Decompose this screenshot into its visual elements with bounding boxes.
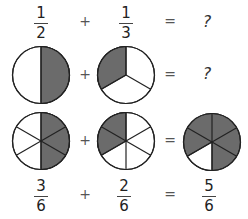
circle-one-half <box>13 47 70 104</box>
numerator: 5 <box>197 179 221 194</box>
circle-three-sixths <box>13 113 70 170</box>
fraction-five-sixths: 5 6 <box>197 179 221 214</box>
circle-one-third <box>98 47 155 104</box>
circle-five-sixths <box>184 114 241 171</box>
equals-sign: = <box>162 186 178 202</box>
numerator: 3 <box>29 179 53 194</box>
circle-two-sixths <box>98 113 155 170</box>
denominator: 6 <box>197 199 221 214</box>
numerator: 2 <box>112 179 136 194</box>
denominator: 6 <box>29 199 53 214</box>
fraction-two-sixths: 2 6 <box>112 179 136 214</box>
denominator: 6 <box>112 199 136 214</box>
fraction-three-sixths: 3 6 <box>29 179 53 214</box>
plus-sign: + <box>77 186 93 202</box>
